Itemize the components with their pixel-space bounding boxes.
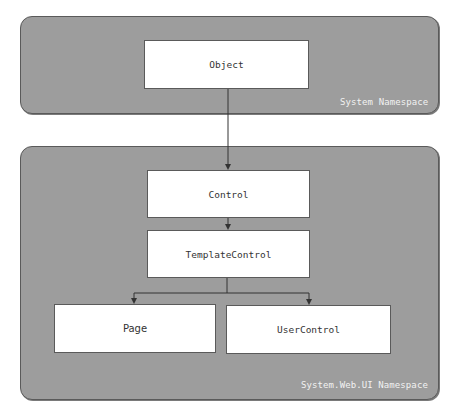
page-node: Page bbox=[54, 304, 216, 353]
object-node: Object bbox=[144, 40, 309, 89]
system-web-ui-namespace-label: System.Web.UI Namespace bbox=[301, 380, 428, 390]
user-control-node-label: UserControl bbox=[277, 324, 340, 335]
control-node-label: Control bbox=[208, 189, 248, 200]
system-namespace-label: System Namespace bbox=[340, 97, 428, 107]
template-control-node: TemplateControl bbox=[147, 230, 310, 278]
template-control-node-label: TemplateControl bbox=[186, 249, 272, 260]
page-node-label: Page bbox=[123, 323, 147, 334]
user-control-node: UserControl bbox=[226, 305, 391, 354]
control-node: Control bbox=[147, 170, 310, 218]
object-node-label: Object bbox=[209, 59, 243, 70]
